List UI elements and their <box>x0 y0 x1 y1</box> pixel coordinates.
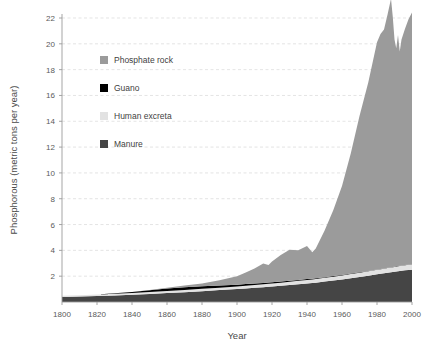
x-tick-label: 1860 <box>158 310 176 319</box>
y-tick-label: 8 <box>51 195 56 204</box>
legend-label: Guano <box>114 83 140 93</box>
x-axis-label: Year <box>227 330 246 341</box>
x-tick-label: 1800 <box>53 310 71 319</box>
legend-item-human-excreta[interactable]: Human excreta <box>100 111 172 121</box>
legend-item-guano[interactable]: Guano <box>100 83 140 93</box>
legend-group: Phosphate rockGuanoHuman excretaManure <box>100 55 174 149</box>
legend-swatch <box>100 112 108 120</box>
y-tick-label: 18 <box>46 66 55 75</box>
phosphorus-sources-area-chart: 1800182018401860188019001920194019601980… <box>0 0 430 352</box>
y-axis-label: Phosphorous (metric tons per year) <box>8 86 19 235</box>
y-tick-label: 12 <box>46 143 55 152</box>
x-tick-label: 1900 <box>228 310 246 319</box>
legend-label: Manure <box>114 139 143 149</box>
legend-swatch <box>100 56 108 64</box>
y-tick-label: 6 <box>51 221 56 230</box>
x-tick-label: 1980 <box>368 310 386 319</box>
y-tick-label: 10 <box>46 169 55 178</box>
legend-label: Phosphate rock <box>114 55 174 65</box>
legend-swatch <box>100 140 108 148</box>
y-tick-label: 20 <box>46 40 55 49</box>
legend-item-phosphate-rock[interactable]: Phosphate rock <box>100 55 174 65</box>
x-tick-label: 1920 <box>263 310 281 319</box>
plot-areas-group <box>62 0 412 302</box>
y-tick-labels-group: 246810121416182022 <box>46 14 55 281</box>
x-tick-label: 1940 <box>298 310 316 319</box>
x-tick-label: 1880 <box>193 310 211 319</box>
x-tick-label: 1960 <box>333 310 351 319</box>
y-tick-label: 2 <box>51 272 56 281</box>
x-tick-label: 2000 <box>403 310 421 319</box>
legend-item-manure[interactable]: Manure <box>100 139 143 149</box>
y-tick-label: 14 <box>46 117 55 126</box>
y-tick-label: 16 <box>46 91 55 100</box>
legend-swatch <box>100 84 108 92</box>
chart-canvas: 1800182018401860188019001920194019601980… <box>0 0 430 352</box>
legend-label: Human excreta <box>114 111 172 121</box>
y-tick-label: 4 <box>51 246 56 255</box>
x-tick-labels-group: 1800182018401860188019001920194019601980… <box>53 310 421 319</box>
x-tick-label: 1840 <box>123 310 141 319</box>
y-tick-label: 22 <box>46 14 55 23</box>
x-tick-label: 1820 <box>88 310 106 319</box>
